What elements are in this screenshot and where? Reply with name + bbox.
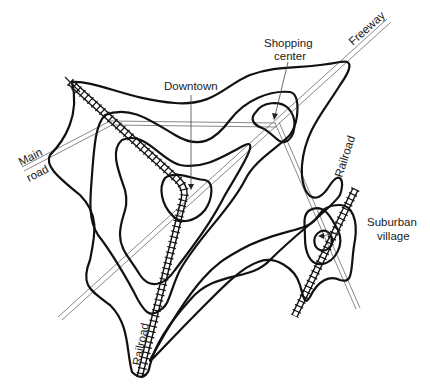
label-shopping-center-2: center (274, 50, 306, 62)
label-downtown: Downtown (164, 80, 218, 92)
suburban-arrow-icon (318, 233, 324, 239)
label-suburban-village-2: village (377, 230, 410, 242)
label-freeway: Freeway (346, 9, 387, 48)
label-suburban-village-1: Suburban (367, 216, 417, 228)
label-railroad-right: Railroad (332, 134, 357, 178)
land-value-contour-map: Downtown Shopping center Freeway Main ro… (0, 0, 430, 386)
label-main-road-2: road (24, 163, 50, 184)
label-railroad-left: Railroad (130, 322, 151, 366)
label-shopping-center-1: Shopping (264, 37, 313, 49)
downtown-arrow-icon (188, 184, 194, 190)
shopping-leader (275, 62, 288, 116)
